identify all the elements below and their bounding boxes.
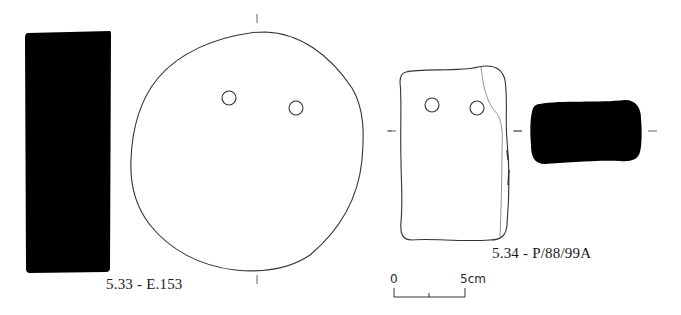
perforation-hole [289,101,303,115]
perforation-hole [425,98,439,112]
object-5-33-section-profile [25,31,111,273]
scale-end-label: 5cm [460,272,486,286]
object-5-34-section-profile [514,100,657,164]
perforation-hole [222,91,236,105]
scale-bar [394,288,465,297]
object-5-33-plan-view [131,14,392,284]
object-5-33-caption: 5.33 - E.153 [106,276,183,293]
scale-start-label: 0 [390,272,398,286]
archaeological-drawing-plate: 5.33 - E.153 5.34 - P/88/99A 0 5cm [0,0,681,315]
perforation-hole [470,101,484,115]
object-5-34-caption: 5.34 - P/88/99A [492,245,591,262]
object-5-34-plan-view [387,66,522,241]
